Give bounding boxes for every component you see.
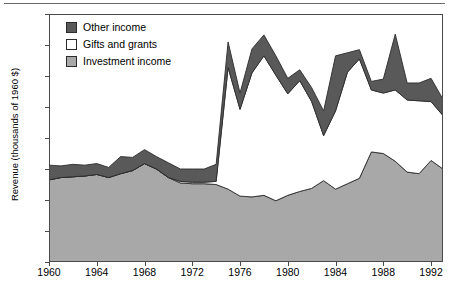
x-tick-mark [49,262,50,266]
legend-item-label: Other income [83,21,146,33]
x-tick-mark [192,262,193,266]
top-rule-divider [4,3,445,4]
chart-figure: Revenue (thousands of 1960 $) 0200400600… [0,0,449,286]
x-tick-mark [97,262,98,266]
legend-item: Investment income [66,54,171,68]
x-tick-label: 1992 [401,266,449,278]
x-tick-mark [336,262,337,266]
legend-item-label: Investment income [83,55,171,67]
legend-item-label: Gifts and grants [83,38,157,50]
x-tick-mark [383,262,384,266]
chart-legend: Other incomeGifts and grantsInvestment i… [66,20,171,68]
x-tick-mark [431,262,432,266]
x-tick-mark [240,262,241,266]
legend-swatch-icon [66,56,77,67]
x-tick-mark [288,262,289,266]
x-tick-mark [145,262,146,266]
legend-item: Other income [66,20,171,34]
legend-swatch-icon [66,22,77,33]
legend-item: Gifts and grants [66,37,171,51]
legend-swatch-icon [66,39,77,50]
y-axis-title: Revenue (thousands of 1960 $) [9,35,20,235]
